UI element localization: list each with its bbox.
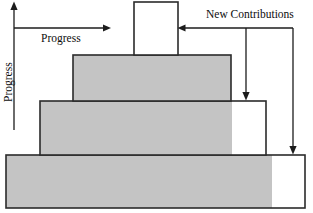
tier-1-white-segment: [134, 2, 178, 55]
drop-to-tier-3-arrowhead-icon: [242, 92, 249, 101]
progress-horizontal-label: Progress: [41, 32, 81, 45]
tier-3-white-segment: [232, 101, 266, 155]
tier-4-gray-segment: [6, 155, 272, 208]
tier-2-gray-segment: [73, 55, 231, 101]
tier-4-bottom: [6, 155, 305, 208]
new-contributions-label: New Contributions: [206, 8, 294, 20]
tier-3: [40, 101, 266, 155]
tier-1-top: [134, 2, 178, 55]
tier-3-gray-segment: [40, 101, 232, 155]
progress-vertical-label: Progress: [2, 62, 15, 102]
pyramid-diagram: Progress Progress New Contributions: [0, 0, 313, 213]
tier-4-white-segment: [272, 155, 305, 208]
progress-vertical-arrowhead-icon: [10, 2, 17, 11]
progress-horizontal-axis: [14, 25, 111, 32]
diagram-canvas: Progress Progress New Contributions: [0, 0, 313, 213]
progress-horizontal-arrowhead-icon: [103, 25, 111, 32]
tier-2: [73, 55, 231, 101]
drop-to-tier-4-arrowhead-icon: [289, 146, 296, 155]
